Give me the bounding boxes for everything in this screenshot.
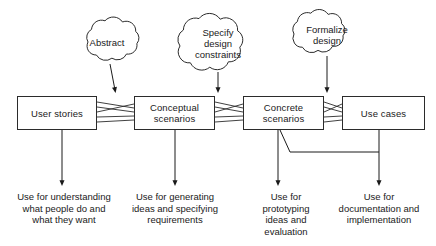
arrow-abstract-to-conceptual [110,64,115,90]
caption-arrow-group [62,130,379,183]
box-user-stories[interactable]: User stories [17,96,97,130]
caption-use-understanding: Use for understanding what people do and… [0,191,128,226]
fan-connector-stories-conceptual [97,102,134,122]
box-label-user-stories: User stories [31,108,83,119]
cloud-shape-specify-design [178,13,243,70]
cloud-shapes-group [87,9,345,70]
box-label-conceptual-scenarios: Conceptual scenarios [150,102,199,124]
cloud-shape-abstract [87,17,139,60]
caption-use-prototyping: Use for prototyping ideas and evaluation [248,191,324,237]
fan-connector-concrete-usecases [324,102,342,122]
box-concrete-scenarios[interactable]: Concrete scenarios [243,96,324,130]
fan-connector-conceptual-concrete [215,102,243,122]
box-label-concrete-scenarios: Concrete scenarios [263,102,305,124]
route-concrete-to-documentation [280,130,379,152]
caption-use-documentation: Use for documentation and implementation [323,191,435,226]
box-conceptual-scenarios[interactable]: Conceptual scenarios [134,96,215,130]
box-use-cases[interactable]: Use cases [342,96,425,130]
diagram-canvas: User stories Conceptual scenarios Concre… [0,0,436,246]
cloud-shape-formalize-design [293,9,345,52]
box-label-use-cases: Use cases [361,108,406,119]
caption-use-generating: Use for generating ideas and specifying … [116,191,234,226]
